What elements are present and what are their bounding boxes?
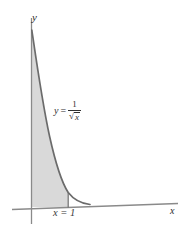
- fraction-numerator: 1: [70, 100, 79, 110]
- curve-equation-equals-sign: =: [60, 106, 66, 116]
- radicand: x: [74, 112, 80, 122]
- x-equals-one-label: x = 1: [53, 208, 75, 219]
- graph-canvas: [0, 0, 185, 235]
- fraction-denominator: √ x: [68, 111, 81, 122]
- curve-equation-fraction: 1 √ x: [68, 100, 81, 122]
- figure-container: y x x = 1 y = 1 √ x: [0, 0, 185, 235]
- y-axis-label: y: [32, 12, 37, 23]
- curve-equation-label: y = 1 √ x: [54, 100, 81, 122]
- square-root-icon: √ x: [69, 112, 80, 122]
- curve-equation-lhs: y: [54, 106, 58, 116]
- x-axis-label: x: [170, 206, 174, 216]
